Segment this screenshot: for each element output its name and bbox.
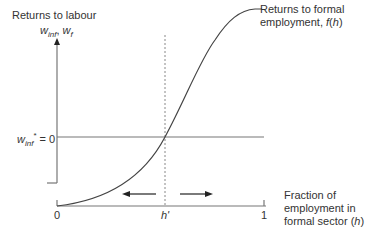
y-axis-title: Returns to labour	[12, 9, 96, 22]
x-tick-hprime-label: h'	[161, 209, 169, 222]
x-tick-zero-label: 0	[54, 209, 60, 222]
right-arrow-icon	[205, 191, 213, 197]
w-inf-star-label: winf* = 0	[17, 129, 55, 150]
x-tick-one-label: 1	[261, 209, 267, 222]
x-axis-label: Fraction of employment in formal sector …	[284, 189, 364, 228]
curve-label: Returns to formal employment, f(h)	[260, 3, 344, 29]
left-arrow-icon	[122, 191, 130, 197]
formal-returns-curve	[57, 9, 255, 206]
y-axis-variables: winf, wf	[40, 24, 73, 41]
